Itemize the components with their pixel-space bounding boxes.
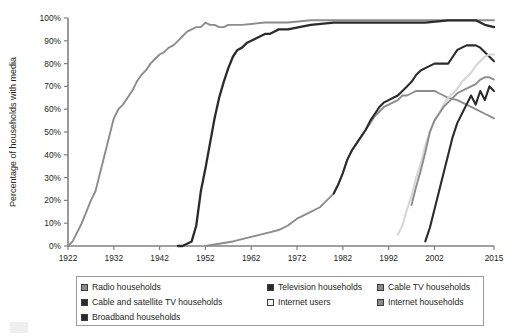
- y-tick-label: 90%: [44, 36, 61, 46]
- legend-item[interactable]: Broadband households: [81, 310, 267, 325]
- y-tick-label: 40%: [44, 150, 61, 160]
- legend-swatch-icon: [377, 284, 384, 291]
- legend-item[interactable]: Internet users: [267, 295, 377, 310]
- x-tick-label: 1992: [379, 253, 398, 263]
- y-tick-label: 30%: [44, 173, 61, 183]
- series-line-2: [205, 91, 494, 246]
- x-tick-label: 1932: [104, 253, 123, 263]
- series-line-1: [178, 20, 494, 246]
- legend-item[interactable]: Cable and satellite TV households: [81, 295, 267, 310]
- legend-swatch-icon: [81, 284, 88, 291]
- legend-swatch-icon: [267, 299, 274, 306]
- x-tick-label: 1922: [59, 253, 78, 263]
- x-tick-label: 1942: [150, 253, 169, 263]
- legend-item-label: Television households: [278, 283, 362, 292]
- legend-swatch-icon: [81, 314, 88, 321]
- legend-item-label: Internet households: [388, 298, 464, 307]
- y-tick-label: 10%: [44, 218, 61, 228]
- legend-swatch-icon: [377, 299, 384, 306]
- legend-item[interactable]: Cable TV households: [377, 280, 489, 295]
- legend-item-label: Cable and satellite TV households: [92, 298, 222, 307]
- series-line-6: [425, 86, 494, 241]
- legend-item[interactable]: Internet households: [377, 295, 489, 310]
- x-tick-label: 1972: [288, 253, 307, 263]
- legend-item[interactable]: Radio households: [81, 280, 267, 295]
- corner-artifact: [10, 322, 28, 333]
- x-tick-label: 1962: [242, 253, 261, 263]
- legend-item-label: Radio households: [92, 283, 161, 292]
- y-tick-label: 100%: [40, 13, 62, 23]
- legend-item-label: Cable TV households: [388, 283, 470, 292]
- legend-item-label: Internet users: [278, 298, 331, 307]
- legend-swatch-icon: [267, 284, 274, 291]
- legend-grid: Radio householdsTelevision householdsCab…: [77, 277, 483, 325]
- chart-legend: Radio householdsTelevision householdsCab…: [76, 276, 484, 326]
- y-tick-label: 70%: [44, 81, 61, 91]
- x-tick-label: 2002: [425, 253, 444, 263]
- x-tick-label: 1982: [334, 253, 353, 263]
- y-tick-label: 20%: [44, 195, 61, 205]
- legend-swatch-icon: [81, 299, 88, 306]
- series-line-3: [334, 45, 494, 193]
- y-tick-label: 60%: [44, 104, 61, 114]
- x-tick-label: 1952: [196, 253, 215, 263]
- legend-item-label: Broadband households: [92, 313, 180, 322]
- series-line-5: [412, 77, 494, 205]
- x-tick-label: 2015: [485, 253, 504, 263]
- y-axis-title: Percentage of households with media: [8, 57, 18, 207]
- chart-figure: 0%10%20%30%40%50%60%70%80%90%100%1922193…: [0, 0, 512, 336]
- y-tick-label: 50%: [44, 127, 61, 137]
- y-tick-label: 0%: [49, 241, 62, 251]
- y-tick-label: 80%: [44, 59, 61, 69]
- legend-item[interactable]: Television households: [267, 280, 377, 295]
